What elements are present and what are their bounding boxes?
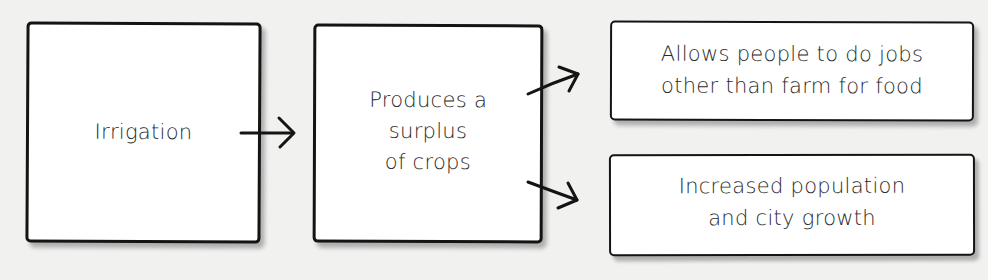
- node-growth-label: Increased population and city growth: [679, 170, 906, 234]
- flowchart-canvas: Irrigation Produces a surplus of crops A…: [0, 0, 988, 280]
- node-surplus-label: Produces a surplus of crops: [369, 85, 487, 178]
- node-irrigation: Irrigation: [25, 21, 261, 243]
- node-surplus: Produces a surplus of crops: [313, 24, 544, 244]
- node-jobs: Allows people to do jobs other than farm…: [610, 21, 974, 122]
- node-jobs-label: Allows people to do jobs other than farm…: [661, 38, 923, 103]
- node-growth: Increased population and city growth: [609, 154, 975, 257]
- node-irrigation-label: Irrigation: [94, 117, 192, 149]
